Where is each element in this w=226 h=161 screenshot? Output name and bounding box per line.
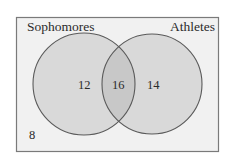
athletes-label: Athletes <box>170 20 215 34</box>
intersection-count: 16 <box>112 79 125 92</box>
outside-count: 8 <box>29 129 35 142</box>
sophomores-label: Sophomores <box>27 20 95 34</box>
sophomores-only-count: 12 <box>78 79 91 92</box>
athletes-only-count: 14 <box>147 79 160 92</box>
